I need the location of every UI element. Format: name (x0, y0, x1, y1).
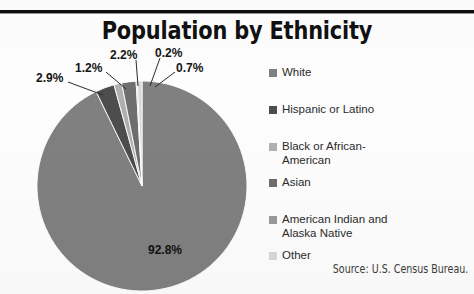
source-note: Source: U.S. Census Bureau. (333, 262, 468, 276)
pie-chart (36, 80, 248, 292)
callout-asian: 2.2% (110, 48, 137, 62)
legend-swatch-hispanic (269, 106, 277, 114)
legend-swatch-asian (269, 179, 277, 187)
legend-item-hispanic[interactable]: Hispanic or Latino (269, 103, 374, 117)
legend-item-white[interactable]: White (269, 66, 311, 80)
legend-item-american-indian[interactable]: American Indian and Alaska Native (269, 213, 387, 240)
callout-white: 92.8% (148, 243, 182, 257)
legend-label-white: White (282, 66, 311, 80)
legend-label-asian: Asian (282, 176, 311, 190)
chart-page: Population by Ethnicity 2.9% 1.2% 2.2% 0… (0, 0, 474, 294)
legend-label-other: Other (282, 249, 311, 263)
legend-item-black[interactable]: Black or African- American (269, 140, 366, 167)
legend-label-black: Black or African- American (282, 140, 366, 167)
legend-swatch-white (269, 69, 277, 77)
callout-hispanic: 2.9% (36, 71, 63, 85)
callout-american-indian: 0.2% (155, 46, 182, 60)
legend-swatch-other (269, 252, 277, 260)
callout-other: 0.7% (176, 61, 203, 75)
legend-label-hispanic: Hispanic or Latino (282, 103, 374, 117)
callout-black: 1.2% (75, 61, 102, 75)
pie-svg (36, 80, 248, 292)
legend-label-american-indian: American Indian and Alaska Native (282, 213, 387, 240)
legend-item-asian[interactable]: Asian (269, 176, 311, 190)
legend-swatch-black (269, 143, 277, 151)
header-rule (0, 10, 474, 13)
page-title: Population by Ethnicity (17, 16, 458, 45)
legend-item-other[interactable]: Other (269, 249, 311, 263)
legend-swatch-american-indian (269, 216, 277, 224)
